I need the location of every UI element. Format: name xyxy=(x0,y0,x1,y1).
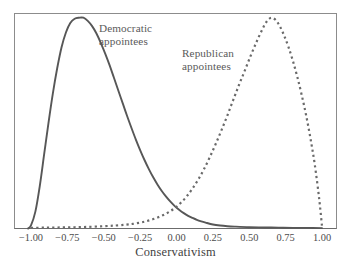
x-tick-label: −0.75 xyxy=(55,232,79,243)
distribution-plot xyxy=(0,0,351,266)
annotation-democratic-line2: appointees xyxy=(99,35,148,47)
chart-figure: Democratic appointees Republican appoint… xyxy=(0,0,351,266)
x-tick-label: 0.75 xyxy=(277,232,295,243)
annotation-republican-line2: appointees xyxy=(182,60,231,72)
x-tick-label: 0.00 xyxy=(167,232,185,243)
annotation-democratic-line1: Democratic xyxy=(99,22,152,34)
x-tick-label: −0.50 xyxy=(92,232,116,243)
annotation-republican-appointees: Republican appointees xyxy=(182,47,234,72)
x-axis-title: Conservativism xyxy=(0,245,351,260)
annotation-democratic-appointees: Democratic appointees xyxy=(99,22,152,47)
x-tick-label: −1.00 xyxy=(19,232,43,243)
x-tick-label: 0.25 xyxy=(204,232,222,243)
x-tick-label: −0.25 xyxy=(128,232,152,243)
x-tick-label: 0.50 xyxy=(240,232,258,243)
x-tick-label: 1.00 xyxy=(313,232,331,243)
annotation-republican-line1: Republican xyxy=(182,47,234,59)
